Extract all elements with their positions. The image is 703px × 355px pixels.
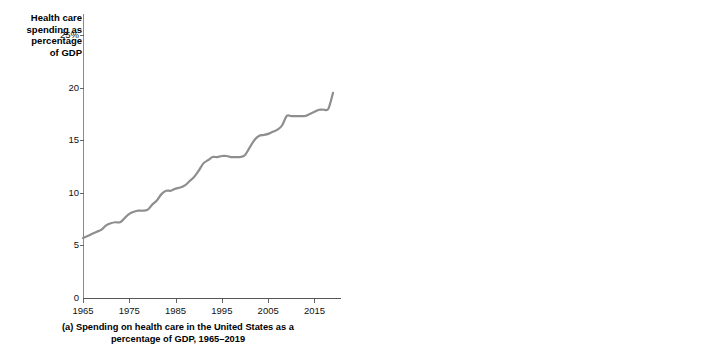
x-tickmark (83, 299, 84, 303)
x-tick-label: 2015 (294, 305, 334, 316)
x-tickmark (222, 299, 223, 303)
panel-a-chart: Health care spending as percentage of GD… (0, 0, 352, 355)
panel-a-series-svg (83, 14, 341, 298)
panel-a-x-axis (83, 298, 341, 299)
y-tickmark (80, 88, 84, 89)
caption-line: percentage of GDP, 1965–2019 (28, 333, 328, 345)
y-tick-label: 5 (47, 239, 79, 250)
x-tickmark (314, 299, 315, 303)
y-title-line: of GDP (10, 47, 82, 59)
panel-b-chart: Health care spending per person 01,0002,… (352, 0, 703, 355)
y-tick-label: 20 (47, 82, 79, 93)
x-tick-label: 1975 (109, 305, 149, 316)
y-tickmark (80, 140, 84, 141)
panel-a-plot-area (83, 14, 341, 298)
y-tickmark (80, 245, 84, 246)
y-tick-label: 10 (47, 187, 79, 198)
x-tick-label: 1985 (156, 305, 196, 316)
x-tickmark (176, 299, 177, 303)
y-tick-label: 15 (47, 134, 79, 145)
caption-line: (a) Spending on health care in the Unite… (28, 321, 328, 333)
y-tickmark (80, 35, 84, 36)
x-tickmark (268, 299, 269, 303)
panel-a-y-axis (83, 14, 84, 298)
y-title-line: Health care (10, 12, 82, 24)
x-tick-label: 2005 (248, 305, 288, 316)
panel-a-caption: (a) Spending on health care in the Unite… (28, 321, 328, 345)
y-tickmark (80, 193, 84, 194)
x-tick-label: 1965 (63, 305, 103, 316)
x-tickmark (129, 299, 130, 303)
y-tick-label: 0 (47, 292, 79, 303)
y-tick-label: 25% (47, 29, 79, 40)
x-tick-label: 1995 (202, 305, 242, 316)
